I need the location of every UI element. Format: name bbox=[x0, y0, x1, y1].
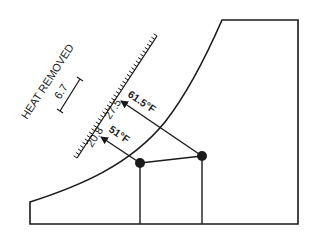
arrow-61-5f bbox=[121, 101, 202, 156]
heat-removed-value: 6.7 bbox=[52, 82, 70, 101]
scale-label-27-5: 27.5 bbox=[102, 97, 124, 122]
scale-label-20-8: 20.8 bbox=[84, 125, 106, 150]
arrow-label-61-5f: 61.5°F bbox=[126, 88, 159, 116]
process-line bbox=[140, 156, 202, 163]
state-point-right bbox=[197, 151, 207, 161]
arrow-label-51f: 51°F bbox=[107, 123, 133, 146]
state-point-left bbox=[135, 158, 145, 168]
heat-removed-label: HEAT REMOVED bbox=[19, 42, 76, 122]
psychrometric-diagram: 20.8 27.5 51°F 61.5°F HEAT REMOVED 6.7 bbox=[0, 0, 313, 238]
